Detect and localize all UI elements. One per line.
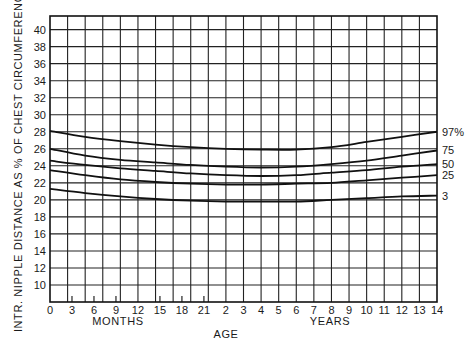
curve-label-97: 97% xyxy=(442,126,464,138)
x-axis-months-label: MONTHS xyxy=(92,315,143,327)
x-axis-years-label: YEARS xyxy=(310,315,350,327)
y-tick-label: 18 xyxy=(34,211,46,223)
y-tick-label: 36 xyxy=(34,58,46,70)
y-tick-label: 32 xyxy=(34,92,46,104)
y-tick-label: 24 xyxy=(34,160,46,172)
x-tick-label-year: 12 xyxy=(396,304,408,316)
x-tick-label-year: 4 xyxy=(258,304,264,316)
x-tick-label-year: 13 xyxy=(413,304,425,316)
y-tick-label: 40 xyxy=(34,24,46,36)
x-tick-label-month: 0 xyxy=(47,304,53,316)
y-tick-label: 10 xyxy=(34,279,46,291)
x-tick-label-month: 18 xyxy=(176,304,188,316)
y-tick-label: 26 xyxy=(34,143,46,155)
x-tick-label-month: 21 xyxy=(198,304,210,316)
x-tick-label-year: 11 xyxy=(379,304,390,316)
curve-label-25: 25 xyxy=(442,169,454,181)
x-tick-label-month: 3 xyxy=(69,304,75,316)
y-tick-label: 38 xyxy=(34,41,46,53)
y-tick-label: 28 xyxy=(34,126,46,138)
curve-label-75: 75 xyxy=(442,144,454,156)
x-tick-label-year: 5 xyxy=(276,304,282,316)
x-axis-title: AGE xyxy=(213,328,238,340)
y-axis-tick-labels: 10121416182022242628303234363840 xyxy=(34,24,46,291)
y-tick-label: 20 xyxy=(34,194,46,206)
y-tick-label: 34 xyxy=(34,75,46,87)
x-tick-label-year: 6 xyxy=(293,304,299,316)
x-tick-label-year: 2 xyxy=(223,304,229,316)
y-tick-label: 16 xyxy=(34,228,46,240)
percentile-chart: 10121416182022242628303234363840 0369121… xyxy=(0,0,474,350)
curve-labels: 97%7550253 xyxy=(442,126,464,202)
x-tick-label-year: 3 xyxy=(240,304,246,316)
y-tick-label: 12 xyxy=(34,262,46,274)
y-tick-label: 14 xyxy=(34,245,46,257)
y-tick-label: 30 xyxy=(34,109,46,121)
x-tick-label-month: 15 xyxy=(154,304,166,316)
x-tick-label-year: 10 xyxy=(361,304,373,316)
y-axis-title: INTR. NIPPLE DISTANCE AS % OF CHEST CIRC… xyxy=(12,0,24,332)
curve-label-3: 3 xyxy=(442,190,448,202)
x-tick-label-year: 14 xyxy=(431,304,443,316)
y-tick-label: 22 xyxy=(34,177,46,189)
